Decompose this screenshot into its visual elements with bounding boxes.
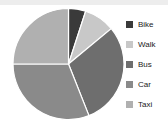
legend-label: Walk [138,40,155,49]
legend-label: Bus [138,60,152,69]
legend-item-car[interactable]: Car [126,74,168,94]
pie-plot-area [13,8,124,120]
legend-item-walk[interactable]: Walk [126,34,168,54]
legend-label: Bike [138,20,154,29]
pie-slice-taxi[interactable] [13,9,69,65]
pie-svg [13,8,124,120]
legend-swatch-icon [126,41,133,48]
legend-item-bike[interactable]: Bike [126,14,168,34]
pie-slice-group [13,9,124,120]
legend-label: Car [138,80,151,89]
legend-item-bus[interactable]: Bus [126,54,168,74]
legend-label: Taxi [138,100,152,109]
top-band [0,0,168,5]
legend-swatch-icon [126,81,133,88]
legend-item-taxi[interactable]: Taxi [126,94,168,114]
legend-swatch-icon [126,101,133,108]
chart-legend: BikeWalkBusCarTaxi [126,14,168,114]
legend-swatch-icon [126,61,133,68]
pie-chart-figure: BikeWalkBusCarTaxi [0,0,168,128]
legend-swatch-icon [126,21,133,28]
